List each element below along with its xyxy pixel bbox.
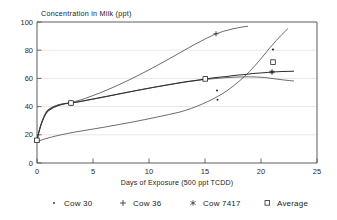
marker-average-d16 [203,77,208,82]
y-tick-label-80: 80 [25,46,33,55]
chart-background [0,0,337,220]
marker-average-d21 [271,60,276,65]
x-tick-label-25: 25 [313,167,321,176]
y-tick-label-0: 0 [29,159,33,168]
y-tick-label-40: 40 [25,102,33,111]
chart-container: Concentration in Milk (ppt) 100 80 60 [0,0,337,220]
marker-cow-30-d21 [272,48,274,50]
chart-title: Concentration in Milk (ppt) [41,9,132,18]
legend-label-average: Average [277,199,308,208]
x-tick-label-10: 10 [145,167,153,176]
marker-average-d0 [35,138,40,143]
x-tick-label-0: 0 [35,167,39,176]
y-tick-label-20: 20 [25,130,33,139]
x-axis-label: Days of Exposure (500 ppt TCDD) [121,179,234,187]
legend-square-icon [265,201,270,206]
y-tick-label-60: 60 [25,74,33,83]
data-markers-day3 [68,100,73,105]
legend-label-cow-7417: Cow 7417 [203,199,241,208]
marker-average-d3 [69,101,74,106]
x-tick-label-15: 15 [201,167,209,176]
x-tick-label-20: 20 [257,167,265,176]
y-tick-label-100: 100 [20,18,33,27]
legend-label-cow-30: Cow 30 [64,199,93,208]
marker-cow-30-d16-b [217,99,219,101]
legend-dot-icon [53,202,55,204]
concentration-line-chart: Concentration in Milk (ppt) 100 80 60 [0,0,337,220]
legend-label-cow-36: Cow 36 [133,199,162,208]
data-markers-day0 [34,138,39,143]
marker-cow-30-d16-a [216,90,218,92]
x-tick-label-5: 5 [91,167,95,176]
